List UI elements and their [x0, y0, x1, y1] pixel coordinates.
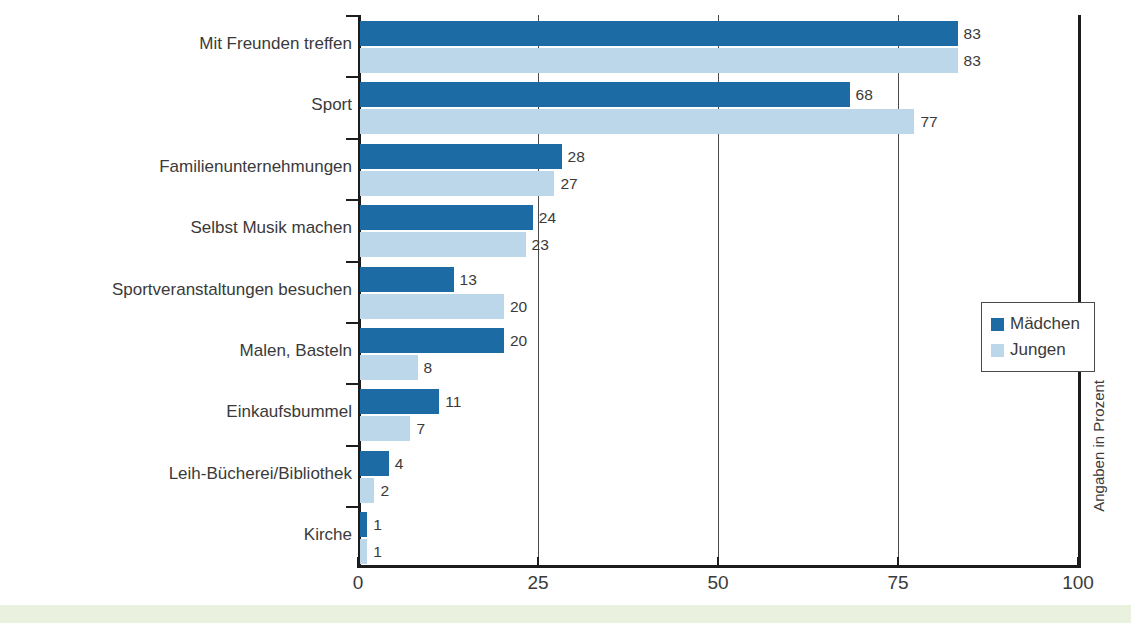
gridline-100	[1078, 15, 1081, 568]
bar	[360, 539, 367, 564]
category-label: Kirche	[2, 525, 352, 545]
bar-value-label: 1	[367, 539, 382, 564]
bar-value-label: 83	[958, 21, 981, 46]
bar	[360, 144, 562, 169]
category-label: Selbst Musik machen	[2, 218, 352, 238]
y-tick	[346, 138, 358, 140]
x-tick-100	[1077, 557, 1079, 568]
legend-item-jungen: Jungen	[991, 337, 1094, 363]
bar	[360, 478, 374, 503]
bar-group: 8383	[358, 18, 1078, 76]
bar-group: 208	[358, 325, 1078, 383]
x-tick-label-100: 100	[1062, 572, 1094, 594]
bar	[360, 21, 958, 46]
bar-value-label: 23	[526, 232, 549, 257]
legend-swatch-maedchen	[991, 318, 1004, 331]
bar	[360, 416, 410, 441]
category-label: Sport	[2, 95, 352, 115]
bar-value-label: 27	[554, 171, 577, 196]
bar-value-label: 77	[914, 109, 937, 134]
legend-swatch-jungen	[991, 344, 1004, 357]
y-tick	[346, 322, 358, 324]
bar-value-label: 13	[454, 267, 477, 292]
y-tick	[346, 445, 358, 447]
bar-value-label: 83	[958, 48, 981, 73]
bar-group: 1320	[358, 264, 1078, 322]
bar-group: 42	[358, 448, 1078, 506]
y-tick	[346, 76, 358, 78]
axis-note: Angaben in Prozent	[1090, 380, 1107, 512]
plot-area: 838368772827242313202081174211	[358, 15, 1078, 568]
bar	[360, 205, 533, 230]
bar	[360, 171, 554, 196]
category-label-column: Mit Freunden treffenSportFamilienunterne…	[0, 15, 352, 568]
x-tick-label-25: 25	[527, 572, 548, 594]
x-tick-label-75: 75	[887, 572, 908, 594]
y-tick	[346, 506, 358, 508]
bar-group: 117	[358, 386, 1078, 444]
bar-value-label: 24	[533, 205, 556, 230]
bar-value-label: 2	[374, 478, 389, 503]
y-tick	[346, 15, 358, 17]
chart-page: Mit Freunden treffenSportFamilienunterne…	[0, 0, 1131, 623]
legend-label-maedchen: Mädchen	[1010, 314, 1080, 334]
category-label: Einkaufsbummel	[2, 402, 352, 422]
bar	[360, 328, 504, 353]
x-tick-0	[357, 557, 359, 568]
category-label: Mit Freunden treffen	[2, 34, 352, 54]
bar-value-label: 8	[418, 355, 433, 380]
bar-value-label: 28	[562, 144, 585, 169]
legend-label-jungen: Jungen	[1010, 340, 1066, 360]
y-tick	[346, 261, 358, 263]
bar-group: 2423	[358, 202, 1078, 260]
bar-value-label: 20	[504, 328, 527, 353]
bar	[360, 355, 418, 380]
category-label: Sportveranstaltungen besuchen	[2, 280, 352, 300]
bar	[360, 389, 439, 414]
bar	[360, 451, 389, 476]
bottom-strip	[0, 605, 1131, 623]
bar-group: 6877	[358, 79, 1078, 137]
x-tick-25	[537, 557, 539, 568]
x-axis-labels: 0255075100	[358, 572, 1088, 602]
x-axis-line	[358, 565, 1081, 568]
category-label: Familienunternehmungen	[2, 157, 352, 177]
bar	[360, 48, 958, 73]
x-tick-75	[897, 557, 899, 568]
category-label: Malen, Basteln	[2, 341, 352, 361]
bar-value-label: 1	[367, 512, 382, 537]
bar-value-label: 11	[439, 389, 461, 414]
bar	[360, 232, 526, 257]
bar-group: 2827	[358, 141, 1078, 199]
bar	[360, 512, 367, 537]
bar	[360, 82, 850, 107]
bar	[360, 294, 504, 319]
category-label: Leih-Bücherei/Bibliothek	[2, 464, 352, 484]
bar-value-label: 20	[504, 294, 527, 319]
bar-value-label: 4	[389, 451, 404, 476]
bar-value-label: 68	[850, 82, 873, 107]
x-tick-50	[717, 557, 719, 568]
legend-item-maedchen: Mädchen	[991, 311, 1094, 337]
bar	[360, 267, 454, 292]
y-tick	[346, 199, 358, 201]
y-tick	[346, 383, 358, 385]
x-tick-label-0: 0	[353, 572, 364, 594]
x-tick-label-50: 50	[707, 572, 728, 594]
bar	[360, 109, 914, 134]
bar-value-label: 7	[410, 416, 425, 441]
legend: Mädchen Jungen	[981, 302, 1095, 372]
